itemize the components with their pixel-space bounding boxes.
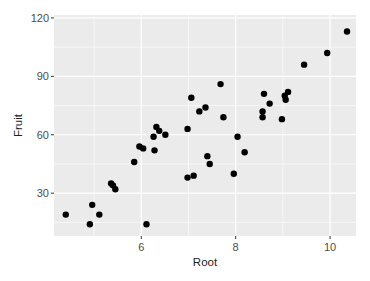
data-point <box>63 211 69 217</box>
x-axis: 6810 <box>138 236 336 253</box>
y-axis: 306090120 <box>31 12 54 199</box>
data-point <box>196 108 202 114</box>
data-point <box>87 221 93 227</box>
x-tick-label: 6 <box>138 241 144 253</box>
y-tick-label: 60 <box>37 129 49 141</box>
data-point <box>301 61 307 67</box>
data-point <box>259 108 265 114</box>
data-point <box>207 161 213 167</box>
x-axis-title: Root <box>193 256 218 268</box>
data-point <box>324 50 330 56</box>
y-axis-title: Fruit <box>12 113 24 137</box>
data-point <box>279 116 285 122</box>
data-point <box>259 114 265 120</box>
x-tick-label: 8 <box>233 241 239 253</box>
data-point <box>190 172 196 178</box>
data-point <box>217 81 223 87</box>
scatter-chart: 306090120 6810 Root Fruit <box>0 0 370 281</box>
data-point <box>156 128 162 134</box>
y-tick-label: 120 <box>31 12 49 24</box>
data-point <box>140 145 146 151</box>
data-point <box>96 211 102 217</box>
x-tick-label: 10 <box>324 241 336 253</box>
data-point <box>131 159 137 165</box>
data-point <box>151 147 157 153</box>
data-point <box>282 97 288 103</box>
data-point <box>234 133 240 139</box>
data-point <box>112 186 118 192</box>
data-point <box>241 149 247 155</box>
data-point <box>143 221 149 227</box>
data-point <box>162 132 168 138</box>
data-point <box>220 114 226 120</box>
data-point <box>266 100 272 106</box>
data-point <box>231 170 237 176</box>
y-tick-label: 30 <box>37 187 49 199</box>
y-tick-label: 90 <box>37 70 49 82</box>
data-point <box>184 174 190 180</box>
data-point <box>188 95 194 101</box>
data-point <box>150 133 156 139</box>
data-point <box>89 202 95 208</box>
plot-panel <box>54 15 356 236</box>
data-point <box>344 28 350 34</box>
data-point <box>202 104 208 110</box>
data-point <box>204 153 210 159</box>
data-point <box>184 126 190 132</box>
data-point <box>261 91 267 97</box>
